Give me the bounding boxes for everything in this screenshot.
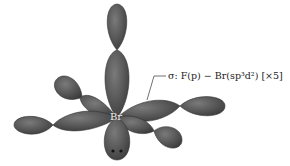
lone-pair-dot [111,149,114,152]
leader-line [147,76,166,100]
f-lobe-upper-left [54,76,82,99]
f-lobe-top [107,4,127,50]
f-lobe-lower-right [154,127,182,148]
f-lobe-left [14,116,53,134]
orbital-lobes [0,0,290,166]
bond-label: σ: F(p) − Br(sp³d²) [×5] [168,70,283,81]
lone-pair-dot [119,149,122,152]
orbital-diagram: Br σ: F(p) − Br(sp³d²) [×5] [0,0,290,166]
central-atom-label: Br [110,111,122,122]
f-lobe-right [180,97,225,116]
